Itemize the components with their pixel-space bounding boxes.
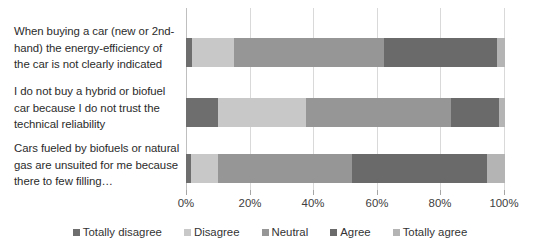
legend-item-totally-disagree[interactable]: Totally disagree <box>73 226 162 239</box>
tick-mark-40 <box>313 190 314 195</box>
tick-mark-100 <box>504 190 505 195</box>
bar-row <box>186 38 505 67</box>
category-axis-labels: When buying a car (new or 2nd-hand) the … <box>0 0 180 195</box>
chart-legend: Totally disagreeDisagreeNeutralAgreeTota… <box>0 223 540 241</box>
bar-segment-disagree <box>191 154 218 183</box>
stacked-bar-chart: When buying a car (new or 2nd-hand) the … <box>0 0 540 247</box>
category-label-0: When buying a car (new or 2nd-hand) the … <box>14 23 180 73</box>
bar-row <box>186 98 505 127</box>
legend-swatch-icon <box>73 229 80 236</box>
x-tick-label-80: 80% <box>429 196 452 210</box>
bar-segment-neutral <box>306 98 451 127</box>
category-label-2: Cars fueled by biofuels or natural gas a… <box>14 140 180 190</box>
x-tick-label-20: 20% <box>239 196 262 210</box>
bar-segment-agree <box>451 98 499 127</box>
tick-mark-20 <box>250 190 251 195</box>
legend-item-disagree[interactable]: Disagree <box>184 226 240 239</box>
legend-label: Totally disagree <box>83 226 162 239</box>
bar-segment-totally-agree <box>487 154 505 183</box>
category-label-1: I do not buy a hybrid or biofuel car bec… <box>14 83 180 133</box>
bar-row <box>186 154 505 183</box>
legend-item-agree[interactable]: Agree <box>330 226 370 239</box>
legend-label: Totally agree <box>403 226 468 239</box>
plot-area <box>186 8 505 190</box>
tick-mark-60 <box>377 190 378 195</box>
x-tick-label-0: 0% <box>178 196 194 210</box>
legend-item-totally-agree[interactable]: Totally agree <box>393 226 468 239</box>
bar-segment-disagree <box>192 38 233 67</box>
x-tick-label-60: 60% <box>366 196 389 210</box>
legend-swatch-icon <box>184 229 191 236</box>
bar-segment-agree <box>352 154 488 183</box>
x-tick-label-100: 100% <box>489 196 518 210</box>
bar-segment-totally-disagree <box>186 98 218 127</box>
legend-swatch-icon <box>262 229 269 236</box>
bar-segment-totally-agree <box>497 38 505 67</box>
legend-item-neutral[interactable]: Neutral <box>262 226 309 239</box>
x-axis-tick-labels: 0%20%40%60%80%100% <box>0 196 540 214</box>
bar-segment-agree <box>384 38 497 67</box>
legend-label: Neutral <box>272 226 309 239</box>
bar-segment-neutral <box>234 38 384 67</box>
bar-segment-totally-agree <box>499 98 505 127</box>
x-tick-label-40: 40% <box>302 196 325 210</box>
bar-segment-neutral <box>218 154 352 183</box>
legend-swatch-icon <box>330 229 337 236</box>
legend-swatch-icon <box>393 229 400 236</box>
tick-mark-80 <box>440 190 441 195</box>
legend-label: Disagree <box>194 226 240 239</box>
tick-mark-0 <box>186 190 187 195</box>
bar-segment-disagree <box>218 98 306 127</box>
legend-label: Agree <box>340 226 370 239</box>
